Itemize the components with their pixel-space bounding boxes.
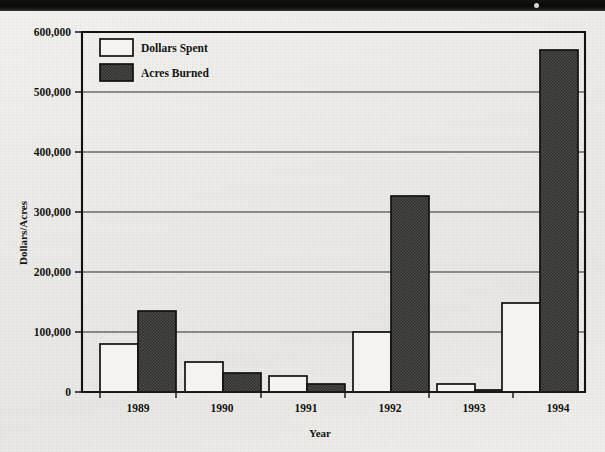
y-tick-label: 100,000 — [34, 326, 72, 338]
bar-dollars-spent-1989 — [100, 344, 138, 392]
bars — [100, 50, 578, 392]
bar-dollars-spent-1992 — [353, 332, 391, 392]
x-tick-label: 1989 — [127, 402, 150, 414]
legend: Dollars Spent Acres Burned — [100, 39, 209, 81]
bar-dollars-spent-1994 — [502, 303, 540, 392]
y-tick-label: 500,000 — [34, 86, 72, 98]
x-axis-tick-labels: 1989 1990 1991 1992 1993 1994 — [127, 402, 570, 414]
gridlines — [82, 92, 585, 332]
x-tick-label: 1990 — [211, 402, 234, 414]
bar-acres-burned-1989 — [138, 311, 176, 392]
bar-acres-burned-1990 — [223, 373, 261, 392]
y-tick-label: 600,000 — [34, 26, 72, 38]
bar-dollars-spent-1991 — [269, 376, 307, 392]
legend-label-dollars-spent: Dollars Spent — [141, 42, 208, 55]
bar-dollars-spent-1990 — [185, 362, 223, 392]
y-axis-tick-labels: 600,000 500,000 400,000 300,000 200,000 … — [34, 26, 72, 398]
x-tick-label: 1993 — [463, 402, 486, 414]
y-tick-label: 400,000 — [34, 146, 72, 158]
legend-swatch-acres-burned — [100, 64, 133, 81]
bar-acres-burned-1992 — [391, 196, 429, 392]
y-tick-label: 0 — [65, 386, 71, 398]
x-tick-label: 1992 — [379, 402, 402, 414]
bar-chart: 600,000 500,000 400,000 300,000 200,000 … — [0, 0, 605, 452]
legend-label-acres-burned: Acres Burned — [141, 67, 209, 79]
y-axis-title: Dollars/Acres — [17, 200, 29, 265]
legend-swatch-dollars-spent — [100, 39, 133, 56]
y-tick-label: 300,000 — [34, 206, 72, 218]
bar-acres-burned-1994 — [540, 50, 578, 392]
x-tick-label: 1994 — [547, 402, 570, 414]
bar-dollars-spent-1993 — [437, 384, 475, 392]
x-tick-label: 1991 — [295, 402, 318, 414]
y-tick-label: 200,000 — [34, 266, 72, 278]
x-axis-title: Year — [309, 427, 331, 439]
bar-acres-burned-1991 — [307, 384, 345, 392]
